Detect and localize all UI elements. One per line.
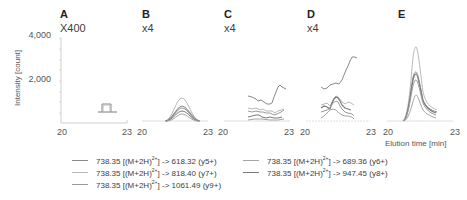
panel-e-x-max: 23 (450, 127, 460, 137)
panel-a-axes (59, 38, 127, 123)
panel-d-axes (306, 57, 370, 121)
legend-item-y8: 738.35 [(M+2H)2+] -> 947.45 (y8+) (243, 166, 388, 178)
legend-text-y5: 738.35 [(M+2H)2+] -> 618.32 (y5+) (96, 155, 217, 166)
legend-left: 738.35 [(M+2H)2+] -> 618.32 (y5+) 738.35… (72, 154, 221, 190)
legend-swatch-y7 (72, 172, 88, 173)
panel-e-x-min: 20 (383, 127, 393, 137)
panel-a-x-min: 20 (57, 127, 67, 137)
panel-c-x-min: 20 (218, 127, 228, 137)
legend-item-y7: 738.35 [(M+2H)2+] -> 818.40 (y7+) (72, 166, 221, 178)
panel-c-axes (224, 85, 290, 121)
panel-d-x-min: 20 (300, 127, 310, 137)
legend-text-y9: 738.35 [(M+2H)2+] -> 1061.49 (y9+) (96, 179, 221, 190)
panel-b-x-max: 23 (203, 127, 213, 137)
legend-swatch-y8 (243, 172, 259, 173)
legend-swatch-y6 (243, 160, 259, 161)
legend-text-y7: 738.35 [(M+2H)2+] -> 818.40 (y7+) (96, 167, 217, 178)
chart-plot-area (0, 0, 467, 200)
panel-c-x-max: 23 (284, 127, 294, 137)
panel-b-axes (142, 98, 208, 121)
legend-item-y9: 738.35 [(M+2H)2+] -> 1061.49 (y9+) (72, 178, 221, 190)
legend-swatch-y9 (72, 184, 88, 185)
panel-e-axes (387, 47, 453, 121)
x-axis-label: Elution time [min] (385, 139, 446, 148)
legend-text-y6: 738.35 [(M+2H)2+] -> 689.36 (y6+) (267, 155, 388, 166)
panel-a-x-max: 23 (122, 127, 132, 137)
panel-d-x-max: 23 (366, 127, 376, 137)
legend-text-y8: 738.35 [(M+2H)2+] -> 947.45 (y8+) (267, 167, 388, 178)
legend-item-y6: 738.35 [(M+2H)2+] -> 689.36 (y6+) (243, 154, 388, 166)
legend-right: 738.35 [(M+2H)2+] -> 689.36 (y6+) 738.35… (243, 154, 388, 178)
legend-swatch-y5 (72, 160, 88, 161)
panel-b-x-min: 20 (137, 127, 147, 137)
legend-item-y5: 738.35 [(M+2H)2+] -> 618.32 (y5+) (72, 154, 221, 166)
